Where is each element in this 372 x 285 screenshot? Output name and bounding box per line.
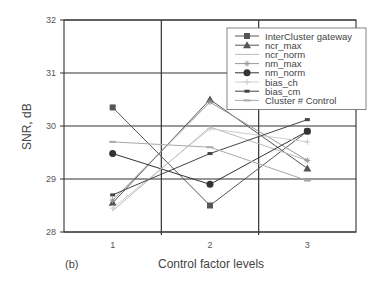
y-tick-label: 28 <box>46 227 56 237</box>
panel-label: (b) <box>65 258 78 270</box>
x-tick-label: 2 <box>207 240 212 250</box>
legend-label: Cluster # Control <box>265 95 336 106</box>
x-tick-label: 3 <box>305 240 310 250</box>
series-intercluster-gateway <box>110 104 311 208</box>
legend: InterCluster gatewayncr_maxncr_normnm_ma… <box>227 28 366 110</box>
series-lines <box>109 96 312 212</box>
y-tick-label: 32 <box>46 15 56 25</box>
series-bias-ch <box>110 126 311 211</box>
y-axis-label: SNR, dB <box>20 103 34 150</box>
x-tick-label: 1 <box>110 240 115 250</box>
series-cluster-control <box>109 141 311 182</box>
y-tick-label: 31 <box>46 68 56 78</box>
y-tick-label: 29 <box>46 174 56 184</box>
y-tick-label: 30 <box>46 121 56 131</box>
x-axis-label: Control factor levels <box>158 257 264 271</box>
line-chart: 2829303132123 InterCluster gatewayncr_ma… <box>0 0 372 285</box>
series-ncr-norm <box>113 127 308 211</box>
series-ncr-max <box>109 96 312 206</box>
